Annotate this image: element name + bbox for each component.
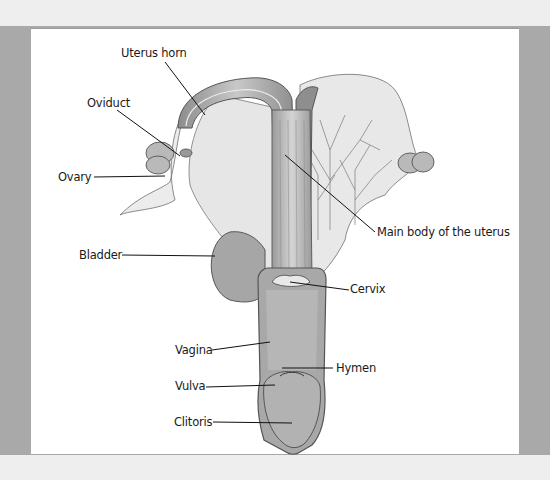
ovary-right [398,152,434,173]
label-clitoris: Clitoris [174,415,212,429]
label-vagina: Vagina [175,343,213,357]
ovary-left [146,142,192,174]
bladder-shape [211,232,265,302]
label-uterus-horn: Uterus horn [121,46,187,60]
label-hymen: Hymen [336,361,376,375]
label-ovary: Ovary [58,170,91,184]
uterus-body-shape [272,110,312,280]
label-main-body-of-uterus: Main body of the uterus [377,225,510,239]
label-vulva: Vulva [175,379,205,393]
label-bladder: Bladder [79,248,122,262]
cervix-shape [272,275,310,286]
label-oviduct: Oviduct [87,96,130,110]
anatomy-illustration [0,0,550,480]
label-cervix: Cervix [350,282,385,296]
